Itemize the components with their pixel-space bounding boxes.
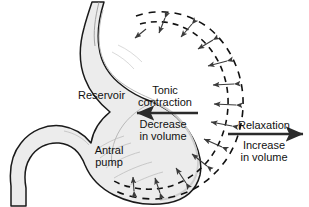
label-reservoir: Reservoir — [78, 89, 125, 101]
label-tonic-contraction-line2: contraction — [128, 96, 202, 108]
fundus-rugae — [112, 45, 142, 69]
label-decrease-line2: in volume — [127, 130, 199, 142]
radial-arrow — [198, 40, 213, 49]
label-antral-line1: Antral — [86, 144, 132, 156]
radial-arrow — [208, 61, 227, 66]
radial-arrow — [213, 84, 234, 85]
figure-canvas: Reservoir Tonic contraction Decrease in … — [0, 0, 309, 207]
label-antral-line2: pump — [86, 156, 132, 168]
radial-arrow — [214, 104, 236, 105]
radial-arrow — [181, 24, 192, 37]
radial-arrow — [135, 29, 146, 38]
label-relaxation: Relaxation — [228, 119, 300, 131]
label-decrease-line1: Decrease — [127, 118, 199, 130]
label-decrease-in-volume: Decrease in volume — [127, 118, 199, 142]
radial-arrow — [159, 18, 165, 33]
label-increase-line2: in volume — [228, 151, 300, 163]
label-increase-in-volume: Increase in volume — [228, 139, 300, 163]
label-antral-pump: Antral pump — [86, 144, 132, 168]
label-tonic-contraction: Tonic contraction — [128, 84, 202, 108]
label-tonic-contraction-line1: Tonic — [128, 84, 202, 96]
label-increase-line1: Increase — [228, 139, 300, 151]
